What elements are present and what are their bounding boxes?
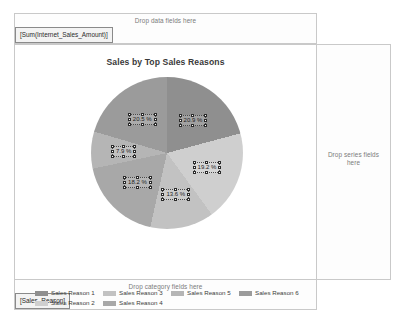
chart-legend[interactable]: Sales Reason 1Sales Reason 3Sales Reason… [35, 289, 307, 309]
data-label-sales-reason-1[interactable]: 20.9 % [180, 115, 207, 126]
legend-label: Sales Reason 5 [187, 289, 231, 297]
data-label-text: 20.5 % [133, 116, 152, 122]
legend-label: Sales Reason 3 [119, 289, 163, 297]
legend-label: Sales Reason 6 [255, 289, 299, 297]
chart-preview-area[interactable]: Sales by Top Sales Reasons 20.9 % 19.2 %… [14, 44, 317, 280]
pie-chart[interactable]: 20.9 % 19.2 % 13.6 % 18.2 % [91, 77, 243, 229]
legend-label: Sales Reason 4 [119, 299, 163, 307]
chart-design-surface: Drop data fields here [Sum(Internet_Sale… [0, 0, 395, 321]
chart-title: Sales by Top Sales Reasons [15, 57, 316, 67]
legend-item[interactable]: Sales Reason 6 [239, 289, 307, 297]
data-label-text: 20.9 % [184, 117, 203, 123]
legend-item[interactable]: Sales Reason 4 [103, 299, 171, 307]
legend-swatch-icon [239, 291, 252, 296]
legend-item[interactable]: Sales Reason 2 [35, 299, 103, 307]
legend-swatch-icon [103, 301, 116, 306]
legend-label: Sales Reason 2 [51, 299, 95, 307]
legend-label: Sales Reason 1 [51, 289, 95, 297]
legend-item[interactable]: Sales Reason 3 [103, 289, 171, 297]
data-label-sales-reason-2[interactable]: 19.2 % [194, 162, 221, 173]
data-label-sales-reason-6[interactable]: 20.5 % [129, 114, 156, 125]
data-fields-drop-hint: Drop data fields here [15, 17, 316, 25]
data-label-sales-reason-5[interactable]: 7.9 % [112, 146, 135, 157]
legend-swatch-icon [35, 301, 48, 306]
legend-item[interactable]: Sales Reason 1 [35, 289, 103, 297]
data-label-text: 18.2 % [128, 179, 147, 185]
legend-swatch-icon [171, 291, 184, 296]
series-fields-drop-zone[interactable]: Drop series fields here [316, 44, 391, 280]
legend-item[interactable]: Sales Reason 5 [171, 289, 239, 297]
data-label-sales-reason-4[interactable]: 18.2 % [124, 177, 151, 188]
series-fields-drop-hint: Drop series fields here [317, 151, 390, 167]
data-field-chip-internet-sales-amount[interactable]: [Sum(Internet_Sales_Amount)] [15, 27, 113, 43]
data-label-text: 13.6 % [166, 191, 185, 197]
data-label-text: 7.9 % [116, 148, 131, 154]
legend-swatch-icon [103, 291, 116, 296]
legend-swatch-icon [35, 291, 48, 296]
data-label-text: 19.2 % [198, 164, 217, 170]
data-label-sales-reason-3[interactable]: 13.6 % [162, 189, 189, 200]
